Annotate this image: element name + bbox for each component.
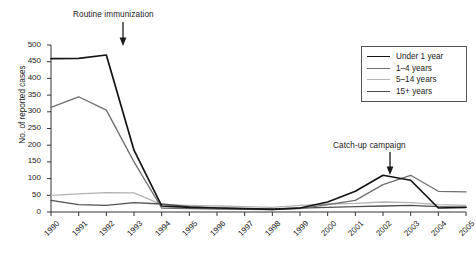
legend-item: 5–14 years — [367, 74, 462, 86]
y-tick-label: 200 — [15, 140, 41, 149]
chart-legend: Under 1 year1–4 years5–14 years15+ years — [361, 46, 467, 102]
legend-swatch-icon — [367, 56, 390, 57]
legend-label: 15+ years — [396, 87, 432, 96]
y-tick-label: 500 — [15, 40, 41, 49]
y-tick-label: 450 — [15, 56, 41, 65]
legend-item: Under 1 year — [367, 51, 462, 63]
y-tick-label: 350 — [15, 90, 41, 99]
y-tick-label: 100 — [15, 173, 41, 182]
y-tick-label: 250 — [15, 123, 41, 132]
y-axis-ticks — [47, 45, 51, 212]
legend-item: 1–4 years — [367, 63, 462, 75]
legend-swatch-icon — [367, 79, 390, 80]
legend-label: Under 1 year — [396, 52, 443, 61]
annotation-catchup-campaign: Catch-up campaign — [333, 141, 406, 150]
x-axis-ticks — [51, 212, 466, 216]
legend-swatch-icon — [367, 68, 390, 69]
y-tick-label: 300 — [15, 106, 41, 115]
legend-label: 1–4 years — [396, 64, 432, 73]
annotation-routine-immunization: Routine immunization — [73, 10, 154, 19]
y-tick-label: 0 — [15, 207, 41, 216]
legend-label: 5–14 years — [396, 75, 437, 84]
y-tick-label: 50 — [15, 190, 41, 199]
y-tick-label: 150 — [15, 156, 41, 165]
y-tick-label: 400 — [15, 73, 41, 82]
legend-item: 15+ years — [367, 86, 462, 98]
legend-swatch-icon — [367, 91, 390, 92]
